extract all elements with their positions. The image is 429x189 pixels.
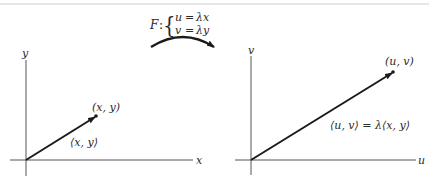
mapping-name: F	[149, 18, 159, 32]
eq1-lhs: u	[175, 11, 182, 24]
eq1-rhs: λx	[195, 11, 210, 24]
mapping-brace: {	[163, 13, 176, 38]
y-axis-label: y	[21, 47, 29, 60]
point-uv-label: (u, v)	[385, 55, 414, 68]
vector-uv-label: ⟨u, v⟩ = λ⟨x, y⟩	[330, 119, 410, 132]
eq1-op: =	[185, 11, 194, 24]
v-axis-label: v	[248, 44, 255, 57]
mapping-label: F : { u = λx v = λy	[149, 11, 210, 38]
eq2-lhs: v	[175, 24, 182, 37]
left-plot: x y (x, y) ⟨x, y⟩	[10, 47, 203, 176]
eq2-rhs: λy	[195, 24, 210, 37]
eq2-op: =	[185, 24, 194, 37]
right-plot: u v (u, v) ⟨u, v⟩ = λ⟨x, y⟩	[235, 44, 425, 175]
x-axis-label: x	[196, 154, 203, 167]
point-uv	[391, 70, 395, 74]
vector-xy-label: ⟨x, y⟩	[70, 136, 98, 149]
point-xy-label: (x, y)	[92, 101, 120, 114]
u-axis-label: u	[418, 154, 425, 167]
mapping-arrow-icon	[151, 37, 214, 47]
vector-uv-arrow-icon	[251, 73, 392, 160]
point-xy	[94, 114, 98, 118]
diagram-canvas: F : { u = λx v = λy x y (x, y) ⟨x, y⟩ u …	[0, 0, 429, 189]
